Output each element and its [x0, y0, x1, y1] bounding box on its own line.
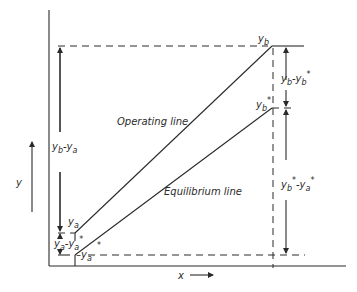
absorption-diagram: y x Operating line Equilibrium line yb y… — [0, 0, 357, 292]
ya-minus-ya-star-label: ya-ya* — [53, 235, 83, 252]
operating-line-label: Operating line — [117, 116, 188, 127]
y-axis-label: y — [15, 177, 23, 188]
svg-text:ya-ya*: ya-ya* — [53, 235, 83, 252]
svg-text:ya: ya — [67, 216, 79, 230]
yb-star-minus-ya-star-label: yb*-ya* — [280, 176, 314, 193]
equilibrium-line — [75, 108, 272, 255]
x-axis-label: x — [177, 270, 184, 281]
yb-point-label: yb — [257, 33, 269, 47]
svg-text:yb: yb — [257, 33, 269, 47]
svg-text:*: * — [97, 241, 101, 250]
yb-minus-yb-star-label: yb-yb* — [280, 70, 311, 87]
equilibrium-line-label: Equilibrium line — [164, 186, 242, 197]
ya-point-label: ya — [67, 216, 79, 230]
svg-text:yb*-ya*: yb*-ya* — [280, 176, 314, 193]
operating-line — [75, 46, 272, 233]
svg-text:yb-yb*: yb-yb* — [280, 70, 311, 87]
